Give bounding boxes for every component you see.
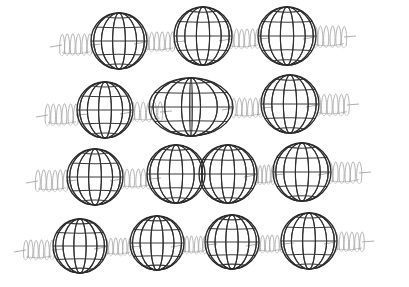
diagram-canvas [0,0,409,287]
sphere-latitude [162,149,191,150]
spring-coil [154,32,159,49]
spring-coil [130,169,135,186]
sphere-latitude [276,79,305,80]
spring-coil [123,238,127,254]
spring-lead-right [344,36,356,37]
sphere-latitude [288,196,317,197]
spring-lead-left [50,45,62,47]
spring-coil [185,236,189,252]
spring-coil [321,94,326,113]
spring-coil-back [74,123,78,126]
sphere-latitude [219,264,246,265]
sphere-latitude [81,96,130,97]
ball-and-spring-scene [0,0,409,287]
sphere-latitude [178,22,228,23]
spring-coil [45,104,50,123]
sphere-latitude [57,259,104,260]
spring-coil [339,232,344,249]
sphere-latitude [203,160,253,161]
spring-coil [136,169,141,186]
sphere-2-3 [261,75,319,133]
spring-coil [82,34,87,53]
spring-lead-right [359,172,371,173]
row-1-three-spheres [50,7,356,69]
spring-4-4 [246,235,294,253]
spring-coil [109,238,113,254]
sphere-3-4 [273,143,331,201]
spring-coil [339,94,344,113]
spring-coil [350,162,355,181]
spring-coil [318,26,323,45]
spring-coil [141,169,146,186]
sphere-latitude [189,11,218,12]
spring-coil-back [50,257,54,259]
sphere-latitude [67,268,94,269]
sphere-latitude [91,86,119,87]
spring-coil [56,104,61,123]
sphere-2-1 [77,82,133,138]
sphere-latitude [81,200,109,201]
spring-coil [349,232,354,249]
sphere-latitude [189,60,218,61]
spring-coil [239,29,244,46]
spring-coil [58,170,63,189]
spring-coil [324,26,329,45]
spring-coil [53,170,58,189]
spring-coil [250,29,255,46]
spring-coil [24,240,29,257]
spring-4-1 [14,240,64,260]
sphere-latitude [71,190,120,191]
spring-axis [318,112,347,114]
sphere-latitude [276,128,305,129]
spring-coil [34,240,39,257]
spring-coil-back [259,115,263,117]
sphere-4-4 [281,213,337,269]
spring-coil [151,102,156,119]
sphere-latitude [170,131,212,132]
sphere-latitude [91,133,119,134]
sphere-latitude [95,54,144,55]
sphere-latitude [162,198,191,199]
spring-coil [339,162,344,181]
spring-coil-back [170,49,174,51]
spring-coil [267,165,271,182]
spring-coil-back [360,249,364,251]
sphere-latitude [262,50,312,51]
spring-coil-back [256,46,260,48]
spring-coil-back [357,181,361,184]
spring-coil [265,235,269,251]
sphere-latitude [144,265,171,266]
spring-coil-back [355,250,359,252]
spring-coil [68,104,73,123]
sphere-3-3 [199,145,257,203]
spring-coil [62,104,67,123]
sphere-latitude [214,149,243,150]
sphere-latitude [214,198,243,199]
sphere-1-1 [91,13,147,69]
sphere-latitude [57,233,104,234]
spring-coil [237,98,242,115]
spring-coil [39,240,44,257]
spring-coil [70,34,75,53]
sphere-latitude [105,64,133,65]
spring-coil-back [344,249,348,251]
sphere-latitude [285,254,334,255]
spring-lead-right [347,104,359,105]
sphere-latitude [209,255,256,256]
sphere-latitude [277,158,327,159]
spring-coil [41,170,46,189]
spring-lead-right [362,241,374,242]
sphere-latitude [71,163,120,164]
spring-coil [344,94,349,113]
spring-coil [189,236,193,252]
sphere-latitude [295,217,323,218]
spring-coil-back [242,115,246,117]
spring-coil [248,98,253,115]
spring-coil [45,240,50,257]
spring-coil [135,102,140,119]
spring-coil [242,98,247,115]
sphere-latitude [273,60,302,61]
spring-coil [118,238,122,254]
sphere-latitude [265,90,315,91]
sphere-latitude [105,17,133,18]
